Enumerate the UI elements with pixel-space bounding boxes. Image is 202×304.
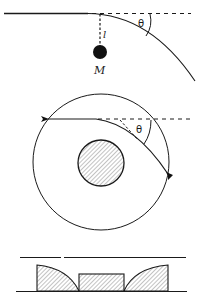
arrow-left-icon xyxy=(41,116,49,122)
panel-circle: θ xyxy=(33,94,193,230)
mass-label: M xyxy=(93,64,106,77)
angle-arc xyxy=(146,14,151,36)
middle-hatched-block xyxy=(79,274,124,291)
angle-label: θ xyxy=(138,18,144,29)
panel-pendulum: l M θ xyxy=(4,14,195,82)
panel-profile xyxy=(16,258,187,292)
figure-canvas: l M θ θ xyxy=(0,0,202,304)
length-label: l xyxy=(103,29,106,40)
mass-bob xyxy=(93,45,107,59)
angle-label: θ xyxy=(136,124,142,135)
angle-arc xyxy=(144,120,151,144)
right-hatched-shape xyxy=(124,265,168,291)
inner-hatched-disc xyxy=(78,140,124,186)
left-hatched-shape xyxy=(37,265,79,291)
